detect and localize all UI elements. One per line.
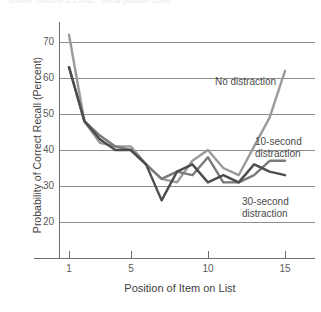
x-tick-marks bbox=[70, 251, 286, 258]
y-tick-70: 70 bbox=[28, 36, 54, 47]
y-tick-labels: 20 30 40 50 60 70 bbox=[24, 0, 54, 312]
annotation-30-second-distraction: 30-second distraction bbox=[242, 196, 289, 219]
x-tick-1: 1 bbox=[57, 263, 81, 274]
annotation-no-distraction: No distraction bbox=[215, 76, 276, 88]
y-tick-50: 50 bbox=[28, 108, 54, 119]
y-tick-60: 60 bbox=[28, 72, 54, 83]
series-line-no-distraction bbox=[69, 35, 285, 183]
data-series bbox=[69, 35, 285, 201]
x-axis-title: Position of Item on List bbox=[60, 282, 300, 294]
x-tick-15: 15 bbox=[273, 263, 297, 274]
x-tick-5: 5 bbox=[119, 263, 143, 274]
y-tick-20: 20 bbox=[28, 216, 54, 227]
y-tick-40: 40 bbox=[28, 144, 54, 155]
y-tick-30: 30 bbox=[28, 180, 54, 191]
serial-position-chart: Source: Glanzer & Cunitz · serial positi… bbox=[0, 0, 321, 312]
annotation-10-second-distraction: 10-second distraction bbox=[255, 136, 302, 159]
x-tick-10: 10 bbox=[196, 263, 220, 274]
